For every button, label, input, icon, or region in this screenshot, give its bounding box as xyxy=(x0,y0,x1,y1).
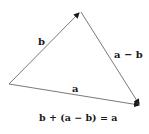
vector-a-minus-b-label: a − b xyxy=(114,49,143,60)
equation-caption: b + (a − b) = a xyxy=(39,112,117,123)
vector-triangle-svg: b a − b a b + (a − b) = a xyxy=(0,0,149,134)
vector-b-arrow xyxy=(9,13,79,84)
vector-diagram: b a − b a b + (a − b) = a xyxy=(0,0,149,134)
vector-b-label: b xyxy=(38,36,45,47)
vector-a-label: a xyxy=(72,83,79,94)
